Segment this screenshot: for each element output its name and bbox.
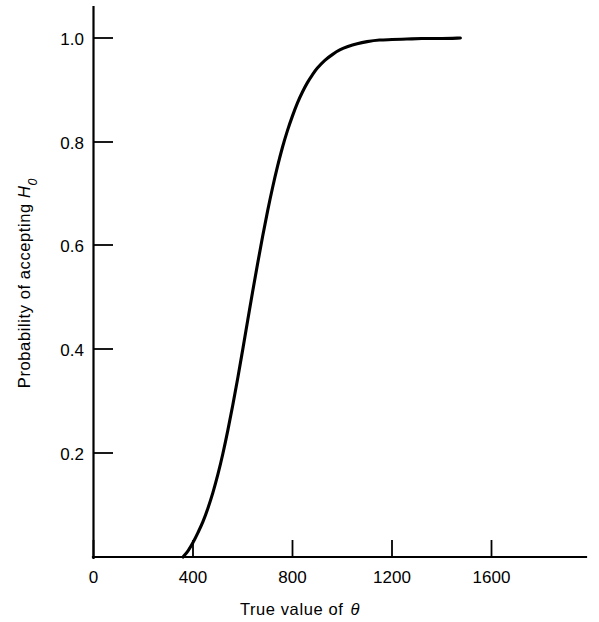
x-tick-label: 800	[278, 568, 306, 587]
svg-text:True value of θ: True value of θ	[240, 600, 360, 618]
x-axis-ticks	[94, 540, 492, 557]
y-tick-labels: 1.0 0.8 0.6 0.4 0.2	[60, 30, 84, 464]
x-axis-title: True value of θ	[240, 600, 360, 618]
x-tick-labels: 0 400 800 1200 1600	[89, 568, 511, 587]
x-tick-label: 1600	[473, 568, 511, 587]
y-tick-label: 0.4	[60, 341, 84, 360]
y-axis-title-text: Probability of accepting	[15, 198, 33, 388]
x-axis-title-text: True value of	[240, 600, 349, 618]
y-tick-label: 0.6	[60, 237, 84, 256]
oc-curve-line	[183, 38, 460, 557]
y-tick-label: 0.8	[60, 134, 84, 153]
chart-figure: 1.0 0.8 0.6 0.4 0.2 0 400 800 1200 1600 …	[0, 0, 599, 622]
x-tick-label: 0	[89, 568, 98, 587]
y-axis-title: Probability of accepting H0	[15, 178, 40, 388]
operating-characteristic-chart: 1.0 0.8 0.6 0.4 0.2 0 400 800 1200 1600 …	[0, 0, 599, 622]
x-tick-label: 1200	[373, 568, 411, 587]
x-axis-title-symbol: θ	[351, 600, 361, 618]
y-tick-label: 0.2	[60, 445, 84, 464]
y-axis-ticks	[94, 38, 113, 453]
y-axis-title-subscript: 0	[26, 178, 40, 186]
y-tick-label: 1.0	[60, 30, 84, 49]
x-tick-label: 400	[179, 568, 207, 587]
y-axis-title-symbol: H	[15, 185, 33, 198]
svg-text:Probability of accepting H0: Probability of accepting H0	[15, 178, 40, 388]
